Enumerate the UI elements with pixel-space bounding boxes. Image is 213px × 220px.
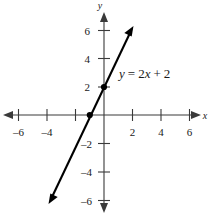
x-axis-group: x — [3, 110, 208, 121]
equation-constant: 2 — [164, 66, 171, 81]
graph-svg: x –6 –4 2 4 6 y — [0, 0, 213, 220]
point-x-intercept — [87, 112, 93, 118]
y-tick-label--4: –4 — [80, 166, 93, 178]
x-axis-right-arrow-icon — [191, 111, 201, 119]
x-tick-label-4: 4 — [158, 126, 164, 138]
y-tick-label-2: 2 — [85, 81, 91, 93]
coordinate-plane-figure: x –6 –4 2 4 6 y — [0, 0, 213, 220]
y-axis-group: y — [97, 0, 108, 213]
equation-variable: x — [144, 66, 151, 81]
y-axis-down-arrow-icon — [100, 203, 108, 213]
y-axis-up-arrow-icon — [100, 12, 108, 22]
x-axis-label: x — [202, 110, 208, 121]
equation-equals: = — [128, 66, 135, 81]
y-tick-label-4: 4 — [85, 53, 91, 65]
y-tick-label--6: –6 — [80, 195, 93, 207]
equation-plus: + — [153, 66, 160, 81]
x-axis-left-arrow-icon — [3, 111, 13, 119]
x-tick-label-2: 2 — [130, 126, 136, 138]
y-tick-label--2: –2 — [80, 138, 92, 150]
point-y-intercept — [101, 84, 107, 90]
equation-annotation: y=2x+2 — [117, 66, 170, 81]
equation-lhs: y — [117, 66, 125, 81]
y-tick-label-6: 6 — [85, 25, 91, 37]
x-tick-label--4: –4 — [41, 126, 54, 138]
x-tick-label-6: 6 — [187, 126, 193, 138]
x-tick-label--6: –6 — [12, 126, 25, 138]
line-lower-arrow-icon — [49, 194, 58, 204]
y-axis-label: y — [97, 0, 103, 11]
x-axis-tick-labels: –6 –4 2 4 6 — [12, 126, 193, 138]
line-upper-arrow-icon — [124, 26, 133, 36]
